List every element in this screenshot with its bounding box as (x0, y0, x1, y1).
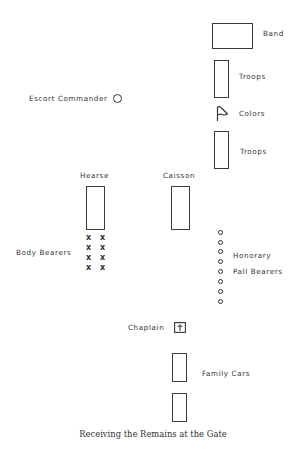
pall-bearer-circle-icon (218, 279, 223, 284)
body-bearer-mark: x (86, 264, 91, 272)
honorary-label: Honorary (233, 252, 271, 259)
troops-bottom-rect (214, 131, 229, 169)
body-bearer-mark: x (86, 244, 91, 252)
pall-bearer-circle-icon (218, 269, 223, 274)
family-cars-label: Family Cars (202, 370, 250, 377)
body-bearer-mark: x (100, 254, 105, 262)
pall-bearer-circle-icon (218, 240, 223, 245)
body-bearer-mark: x (100, 234, 105, 242)
pall-bearer-circle-icon (218, 249, 223, 254)
hearse-label: Hearse (80, 172, 109, 179)
pall-bearer-circle-icon (218, 230, 223, 235)
pall-bearer-circle-icon (218, 259, 223, 264)
diagram-caption: Receiving the Remains at the Gate (0, 429, 306, 439)
pall-bearer-circle-icon (218, 299, 223, 304)
body-bearers-label: Body Bearers (16, 249, 71, 256)
caisson-rect (171, 186, 190, 230)
pall-bearers-label: Pall Bearers (233, 268, 283, 275)
band-rect (212, 23, 253, 49)
flag-icon (216, 105, 229, 122)
body-bearer-mark: x (100, 244, 105, 252)
colors-label: Colors (239, 110, 265, 117)
troops-top-rect (214, 60, 229, 98)
body-bearer-mark: x (100, 264, 105, 272)
pall-bearer-circle-icon (218, 289, 223, 294)
body-bearer-mark: x (86, 234, 91, 242)
escort-commander-label: Escort Commander (29, 95, 108, 102)
caisson-label: Caisson (163, 172, 195, 179)
troops-bottom-label: Troops (240, 148, 267, 155)
body-bearer-mark: x (86, 254, 91, 262)
family-car-rect (172, 393, 187, 422)
ceremony-formation-diagram: Band Troops Colors Troops Escort Command… (0, 0, 306, 449)
cross-box-icon (174, 322, 186, 333)
band-label: Band (263, 30, 284, 37)
family-car-rect (172, 353, 187, 382)
hearse-rect (86, 186, 105, 230)
circle-icon (113, 94, 122, 103)
chaplain-label: Chaplain (128, 324, 164, 331)
troops-top-label: Troops (239, 73, 266, 80)
